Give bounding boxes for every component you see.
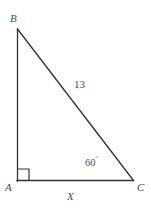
right-angle-square-icon xyxy=(18,169,29,180)
angle-label-c: 60˚ xyxy=(85,156,98,168)
hypotenuse-length-label: 13 xyxy=(74,79,85,90)
degree-symbol: ˚ xyxy=(96,155,98,163)
hypotenuse-bc-line xyxy=(18,29,134,181)
vertex-label-b: B xyxy=(10,13,17,24)
triangle-figure: B A C 13 X 60˚ xyxy=(0,0,151,213)
vertex-label-a: A xyxy=(5,182,12,193)
vertex-label-c: C xyxy=(137,182,145,193)
triangle-drawing xyxy=(0,0,151,213)
base-length-label: X xyxy=(67,191,74,202)
angle-value: 60 xyxy=(85,157,96,168)
